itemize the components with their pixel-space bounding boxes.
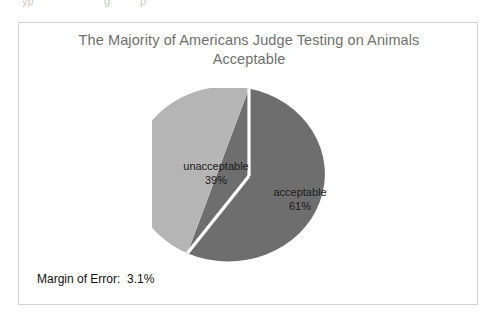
chart-title: The Majority of Americans Judge Testing … — [19, 31, 479, 69]
pie-chart: unacceptable 39% acceptable 61% — [152, 88, 346, 264]
margin-of-error-note: Margin of Error: 3.1% — [37, 272, 154, 287]
top-clip-fragment-3: p — [140, 0, 146, 7]
pie-chart-svg — [152, 88, 346, 264]
chart-title-line-1: The Majority of Americans Judge Testing … — [19, 31, 479, 50]
top-clip-fragment-2: g — [104, 0, 110, 7]
top-clipped-text-strip: yp g p — [0, 0, 497, 12]
chart-title-line-2: Acceptable — [19, 50, 479, 69]
top-clip-fragment-1: yp — [22, 0, 34, 7]
chart-container: The Majority of Americans Judge Testing … — [18, 22, 478, 305]
